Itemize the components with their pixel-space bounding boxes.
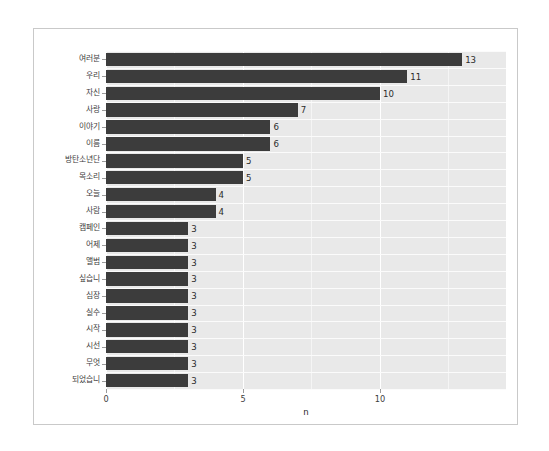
bar [106, 256, 188, 269]
x-axis-tick-label: 10 [375, 394, 385, 404]
y-axis-tick-label: 자신 [86, 85, 100, 102]
y-axis-tick-label: 사랑 [86, 102, 100, 119]
bar-value-label: 3 [188, 357, 196, 370]
y-axis: 여러분우리자신사랑이야기이름방탄소년단목소리오늘사람캠페인어제앨범싶습니심장실수… [34, 51, 106, 389]
bar [106, 103, 298, 116]
bar [106, 306, 188, 319]
bar-value-label: 13 [462, 53, 476, 66]
x-axis-tick-mark [106, 389, 107, 393]
bar-chart: 여러분우리자신사랑이야기이름방탄소년단목소리오늘사람캠페인어제앨범싶습니심장실수… [34, 29, 517, 424]
y-axis-tick-label: 무엇 [86, 355, 100, 372]
bar-value-label: 4 [216, 188, 224, 201]
y-axis-tick-label: 방탄소년단 [65, 152, 100, 169]
x-axis-tick-label: 5 [240, 394, 245, 404]
bar [106, 222, 188, 235]
bar-value-label: 3 [188, 256, 196, 269]
y-axis-tick-label: 우리 [86, 68, 100, 85]
y-axis-tick-label: 사람 [86, 203, 100, 220]
y-axis-tick-label: 싶습니 [79, 271, 100, 288]
bar-value-label: 7 [298, 103, 306, 116]
scanned-page-frame: 여러분우리자신사랑이야기이름방탄소년단목소리오늘사람캠페인어제앨범싶습니심장실수… [33, 28, 518, 425]
bar [106, 70, 407, 83]
bar [106, 374, 188, 387]
bar [106, 289, 188, 302]
bar-value-label: 6 [270, 120, 278, 133]
x-axis-title: n [106, 407, 506, 417]
y-axis-tick-label: 시작 [86, 321, 100, 338]
bar-value-label: 5 [243, 154, 251, 167]
bar [106, 239, 188, 252]
y-axis-tick-label: 어제 [86, 237, 100, 254]
bar-value-label: 6 [270, 137, 278, 150]
y-axis-tick-label: 이야기 [79, 119, 100, 136]
x-axis-tick-label: 0 [103, 394, 108, 404]
y-axis-tick-label: 이름 [86, 136, 100, 153]
y-axis-tick-label: 목소리 [79, 169, 100, 186]
y-axis-tick-label: 시선 [86, 338, 100, 355]
bar-value-label: 3 [188, 222, 196, 235]
bar [106, 272, 188, 285]
bar [106, 137, 270, 150]
bar-value-label: 3 [188, 272, 196, 285]
y-axis-tick-label: 캠페인 [79, 220, 100, 237]
bar [106, 120, 270, 133]
bar [106, 323, 188, 336]
y-axis-tick-label: 되었습니 [72, 372, 100, 389]
bar-value-label: 3 [188, 289, 196, 302]
y-axis-tick-label: 앨범 [86, 254, 100, 271]
y-axis-tick-label: 실수 [86, 305, 100, 322]
bar-value-label: 3 [188, 323, 196, 336]
bar-value-label: 3 [188, 340, 196, 353]
bar-value-label: 5 [243, 171, 251, 184]
bar [106, 357, 188, 370]
bar [106, 87, 380, 100]
y-axis-tick-label: 오늘 [86, 186, 100, 203]
bar-value-label: 3 [188, 374, 196, 387]
y-axis-tick-label: 여러분 [79, 51, 100, 68]
bar-value-label: 10 [380, 87, 394, 100]
bar [106, 154, 243, 167]
x-axis: 0510 [106, 389, 506, 407]
bar-value-label: 4 [216, 205, 224, 218]
x-axis-tick-mark [380, 389, 381, 393]
bar-value-label: 11 [407, 70, 421, 83]
y-axis-tick-label: 심장 [86, 288, 100, 305]
bar [106, 53, 462, 66]
bar [106, 171, 243, 184]
bar [106, 188, 216, 201]
bar [106, 205, 216, 218]
bar-value-label: 3 [188, 306, 196, 319]
plot-panel: 13111076655443333333333 [106, 51, 506, 389]
bar-value-label: 3 [188, 239, 196, 252]
x-axis-tick-mark [243, 389, 244, 393]
bar [106, 340, 188, 353]
